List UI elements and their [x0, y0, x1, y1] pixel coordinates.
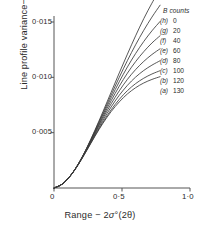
axis-layer — [51, 16, 191, 192]
data-series-line-h — [54, 0, 160, 188]
chart-figure: Line profile variance−W[°(2θ)]2 Range − … — [0, 0, 200, 234]
curve-layer — [54, 0, 160, 188]
data-series-line-e — [54, 36, 160, 188]
data-series-line-b — [54, 71, 160, 188]
data-series-line-g — [54, 5, 160, 188]
data-series-line-a — [54, 77, 160, 188]
plot-area — [0, 0, 200, 234]
data-series-line-c — [54, 61, 160, 188]
